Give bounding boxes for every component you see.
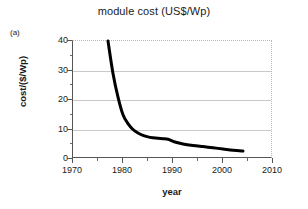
x-tick-label-1990: 1990: [152, 165, 192, 175]
x-minor-tick-1975: [97, 158, 98, 161]
y-axis-title: cost/($/Wp): [17, 38, 28, 126]
y-tick-label-0: 0: [38, 153, 68, 163]
chart-title: module cost (US$/Wp): [0, 5, 308, 17]
plot-area: [72, 40, 272, 158]
module-cost-line: [108, 41, 243, 151]
x-tick-label-2010: 2010: [252, 165, 292, 175]
x-tick-label-2000: 2000: [202, 165, 242, 175]
y-tick-label-40: 40: [38, 35, 68, 45]
x-tick-label-1970: 1970: [52, 165, 92, 175]
y-tick-label-20: 20: [38, 94, 68, 104]
x-minor-tick-1985: [147, 158, 148, 161]
x-minor-tick-2005: [247, 158, 248, 161]
x-minor-tick-1995: [197, 158, 198, 161]
x-axis-tick-labels: 19701980199020002010: [72, 165, 272, 179]
x-tick-mark-2010: [272, 158, 273, 163]
panel-label: (a): [10, 28, 20, 37]
y-tick-label-10: 10: [38, 124, 68, 134]
chart-figure: module cost (US$/Wp) (a) 010203040 19701…: [0, 0, 308, 209]
data-series-module-cost: [73, 41, 273, 159]
x-tick-label-1980: 1980: [102, 165, 142, 175]
y-tick-label-30: 30: [38, 65, 68, 75]
y-axis-tick-labels: 010203040: [36, 40, 68, 158]
x-axis-title: year: [72, 186, 272, 197]
